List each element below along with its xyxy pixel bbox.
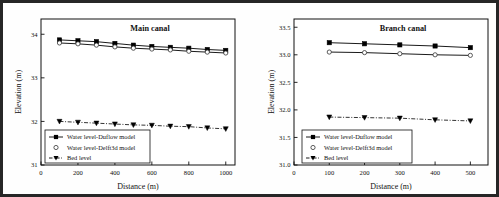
marker-square — [398, 43, 402, 47]
legend-label-2: Bed level — [324, 154, 349, 161]
chart-panel-main-canal: 0200400600800100031323334Distance (m)Ele… — [3, 3, 252, 197]
marker-square — [362, 42, 366, 46]
legend-label-2: Bed level — [67, 154, 92, 161]
y-axis-label: Elevation (m) — [267, 70, 276, 115]
legend-label-0: Water level-Duflow model — [67, 133, 136, 140]
x-tick-label: 1000 — [219, 169, 233, 176]
y-tick-label: 31.5 — [279, 134, 291, 141]
y-tick-label: 31 — [31, 161, 38, 168]
marker-circle — [362, 51, 366, 55]
legend-marker-square — [311, 135, 315, 139]
marker-circle — [433, 53, 437, 57]
y-tick-label: 32.5 — [279, 79, 291, 86]
marker-circle — [468, 53, 472, 57]
x-tick-label: 200 — [73, 169, 84, 176]
y-tick-label: 34 — [31, 31, 38, 38]
y-tick-label: 33 — [31, 74, 38, 81]
marker-circle — [94, 43, 98, 47]
marker-circle — [398, 52, 402, 56]
x-tick-label: 500 — [465, 169, 476, 176]
marker-circle — [224, 51, 228, 55]
x-tick-label: 0 — [292, 169, 296, 176]
legend-label-1: Water level-Delft3d model — [324, 144, 393, 151]
x-tick-label: 400 — [110, 169, 121, 176]
y-axis-label: Elevation (m) — [14, 70, 23, 115]
marker-circle — [205, 50, 209, 54]
marker-circle — [327, 50, 331, 54]
x-tick-label: 400 — [430, 169, 441, 176]
marker-circle — [113, 45, 117, 49]
x-tick-label: 600 — [147, 169, 158, 176]
y-tick-label: 31.0 — [279, 161, 291, 168]
x-axis-label: Distance (m) — [370, 182, 412, 191]
legend-marker-square — [54, 135, 58, 139]
legend-marker-circle — [54, 145, 58, 149]
x-tick-label: 100 — [324, 169, 335, 176]
legend-marker-circle — [311, 145, 315, 149]
marker-circle — [131, 46, 135, 50]
x-tick-label: 300 — [395, 169, 406, 176]
marker-circle — [187, 49, 191, 53]
marker-circle — [57, 41, 61, 45]
marker-square — [468, 46, 472, 50]
x-axis-label: Distance (m) — [117, 182, 159, 191]
marker-circle — [168, 48, 172, 52]
y-tick-label: 33.5 — [279, 24, 291, 31]
chart-panel-branch-canal: 010020030040050031.031.532.032.533.033.5… — [252, 3, 499, 197]
y-tick-label: 33.0 — [279, 51, 291, 58]
main-canal-plot: 0200400600800100031323334Distance (m)Ele… — [3, 3, 252, 197]
x-tick-label: 200 — [360, 169, 371, 176]
marker-square — [327, 41, 331, 45]
marker-square — [433, 44, 437, 48]
marker-circle — [76, 42, 80, 46]
chart-title: Branch canal — [380, 24, 427, 33]
marker-circle — [150, 47, 154, 51]
chart-title: Main canal — [130, 24, 170, 33]
legend-label-1: Water level-Delft3d model — [67, 144, 136, 151]
figure-frame: 0200400600800100031323334Distance (m)Ele… — [0, 0, 499, 197]
x-tick-label: 800 — [184, 169, 195, 176]
branch-canal-plot: 010020030040050031.031.532.032.533.033.5… — [252, 3, 499, 197]
y-tick-label: 32.0 — [279, 106, 291, 113]
legend-label-0: Water level-Duflow model — [324, 133, 393, 140]
y-tick-label: 32 — [31, 118, 38, 125]
x-tick-label: 0 — [39, 169, 43, 176]
